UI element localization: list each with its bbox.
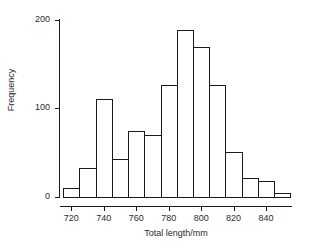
histogram-bar (258, 181, 275, 198)
histogram-bar (274, 193, 291, 198)
histogram-bars (0, 0, 313, 250)
histogram-bar (225, 152, 242, 198)
histogram-bar (177, 30, 194, 198)
histogram-bar (128, 131, 145, 198)
histogram-bar (209, 85, 226, 198)
histogram-figure: Frequency 0100200 720740760780800820840 … (0, 0, 313, 250)
histogram-bar (79, 168, 96, 198)
histogram-bar (242, 178, 259, 198)
histogram-bar (193, 47, 210, 198)
histogram-bar (112, 159, 129, 198)
histogram-bar (96, 99, 113, 198)
histogram-bar (161, 85, 178, 198)
histogram-bar (144, 135, 161, 198)
x-axis-label: Total length/mm (60, 228, 292, 238)
histogram-bar (63, 188, 80, 198)
